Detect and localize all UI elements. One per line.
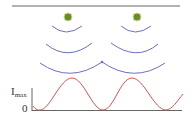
source-1 bbox=[64, 13, 72, 21]
wavefronts-source-1 bbox=[40, 26, 102, 73]
y-max-subscript: max bbox=[15, 91, 27, 99]
interference-diagram bbox=[0, 0, 192, 129]
wavefronts-source-2 bbox=[102, 26, 165, 73]
intensity-curve bbox=[33, 78, 183, 110]
source-2 bbox=[133, 13, 141, 21]
y-zero-label: 0 bbox=[22, 103, 28, 114]
y-max-label: Imax bbox=[11, 86, 27, 99]
wavefront-intersection bbox=[101, 61, 103, 63]
